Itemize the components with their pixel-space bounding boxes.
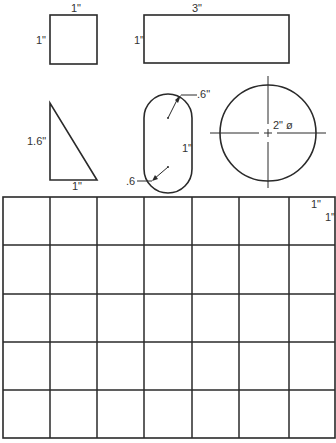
square-top-label: 1" <box>71 2 81 14</box>
rectangle-figure: 3" 1" <box>134 2 289 63</box>
rectangle-side-label: 1" <box>134 34 144 46</box>
rectangle-outline <box>144 15 289 63</box>
triangle-base-label: 1" <box>72 180 82 192</box>
square-side-label: 1" <box>36 34 46 46</box>
obround-bottom-radius-label: .6 <box>126 175 135 187</box>
rectangle-top-label: 3" <box>192 2 202 14</box>
obround-figure: .6" .6 1" <box>126 88 210 193</box>
grid: 1" 1" <box>3 197 335 438</box>
grid-border <box>3 197 335 438</box>
technical-drawing: 1" 1" 3" 1" 1.6" 1" .6" .6 1" <box>0 0 336 443</box>
obround-length-label: 1" <box>182 142 192 154</box>
grid-cell-width-label: 1" <box>311 198 321 210</box>
triangle-figure: 1.6" 1" <box>27 103 97 192</box>
triangle-height-label: 1.6" <box>27 135 46 147</box>
square-outline <box>50 15 97 64</box>
circle-figure: 2" ø <box>210 76 326 188</box>
obround-top-radius-label: .6" <box>197 88 210 100</box>
triangle-outline <box>50 103 97 180</box>
grid-cell-height-label: 1" <box>325 211 335 223</box>
circle-diameter-label: 2" ø <box>273 119 293 131</box>
square-figure: 1" 1" <box>36 2 97 64</box>
